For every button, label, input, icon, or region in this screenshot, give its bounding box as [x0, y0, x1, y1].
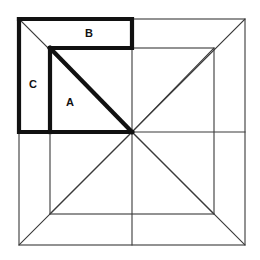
label-b: B [85, 27, 93, 39]
square-dissection-figure: A B C [0, 0, 260, 260]
inner-diagonal-tr-center [132, 48, 214, 132]
inner-diagonal-br-center [132, 132, 214, 214]
region-a-hypotenuse [50, 48, 132, 132]
label-a: A [66, 96, 74, 108]
inner-diagonal-bl-center [50, 132, 132, 214]
label-c: C [29, 78, 37, 90]
diagram-canvas: A B C [0, 0, 260, 260]
region-b-outline [19, 19, 132, 48]
region-c-outline [19, 19, 50, 132]
